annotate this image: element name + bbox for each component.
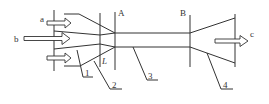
arrow-a-icon: [47, 18, 71, 28]
leader-3: [133, 47, 158, 80]
nozzle-top-wall: [64, 14, 115, 33]
inner-nozzle-bottom-tip: [100, 44, 115, 47]
label-b: b: [14, 34, 19, 44]
label-L: L: [101, 56, 107, 66]
diffuser-bottom: [190, 47, 235, 63]
arrow-b-icon: [24, 33, 70, 45]
label-part-3: 3: [148, 71, 153, 81]
ejector-diagram: a b c A B L 1 2 3 4: [0, 0, 269, 104]
leader-4: [207, 53, 233, 89]
inner-nozzle-top-tip: [100, 33, 115, 35]
inner-nozzle-top: [54, 31, 100, 35]
label-part-1: 1: [85, 68, 90, 78]
arrow-c-icon: [215, 36, 248, 47]
leader-2: [94, 61, 122, 89]
label-part-2: 2: [112, 80, 117, 90]
label-section-A: A: [118, 8, 125, 18]
label-section-B: B: [180, 8, 186, 18]
arrow-lower-icon: [47, 53, 71, 63]
nozzle-bottom-wall: [64, 47, 115, 66]
label-part-4: 4: [223, 80, 228, 90]
label-c: c: [250, 29, 254, 39]
diffuser-top: [190, 18, 235, 33]
label-a: a: [40, 14, 44, 24]
inner-nozzle-bottom: [54, 44, 100, 49]
